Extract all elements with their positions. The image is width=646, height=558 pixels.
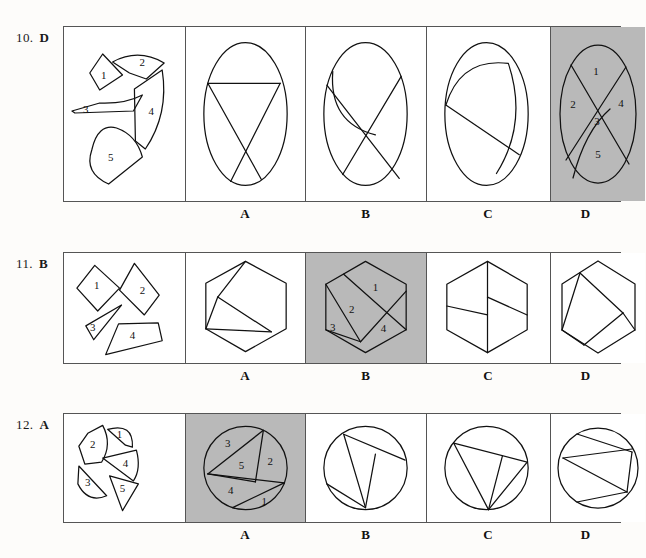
piece-number: 5 bbox=[108, 150, 114, 162]
piece-number: 4 bbox=[123, 457, 129, 469]
option-letter-10-d: D bbox=[550, 206, 621, 222]
piece-number: 2 bbox=[140, 55, 145, 67]
piece-number: 4 bbox=[228, 484, 234, 496]
piece-number: 3 bbox=[85, 476, 91, 488]
answer-strip-12: 1 2 3 4 5 bbox=[63, 413, 621, 523]
piece-number: 4 bbox=[149, 104, 155, 116]
option-panel-11-c[interactable] bbox=[427, 253, 551, 363]
piece-number: 2 bbox=[570, 98, 576, 110]
question-answer-10: D bbox=[39, 30, 49, 45]
question-label-12: 12.A bbox=[16, 417, 49, 433]
option-letter-11-b: B bbox=[305, 368, 426, 384]
piece-number: 1 bbox=[262, 495, 267, 507]
piece-number: 3 bbox=[330, 321, 336, 333]
piece-number: 2 bbox=[90, 438, 95, 450]
piece-number: 2 bbox=[268, 455, 273, 467]
question-number-11: 11. bbox=[16, 256, 33, 271]
question-number-10: 10. bbox=[16, 30, 33, 45]
option-letters-10: A B C D bbox=[63, 206, 621, 222]
piece-number: 1 bbox=[94, 279, 99, 291]
answer-strip-11: 1 2 3 4 bbox=[63, 252, 621, 364]
pieces-panel-12: 1 2 3 4 5 bbox=[64, 414, 186, 522]
option-panel-10-d[interactable]: 1 2 3 4 5 bbox=[551, 27, 645, 201]
piece-number: 4 bbox=[381, 322, 387, 334]
option-panel-12-c[interactable] bbox=[427, 414, 551, 522]
worksheet-page: 10.D 1 2 3 4 bbox=[0, 0, 646, 558]
question-row-12: 12.A 1 2 3 4 bbox=[0, 411, 646, 558]
option-letter-11-d: D bbox=[550, 368, 621, 384]
option-letter-10-a: A bbox=[185, 206, 305, 222]
piece-number: 2 bbox=[140, 284, 145, 296]
piece-number: 4 bbox=[130, 329, 136, 341]
option-letters-12: A B C D bbox=[63, 527, 621, 543]
pieces-panel-10: 1 2 3 4 5 bbox=[64, 27, 186, 201]
question-number-12: 12. bbox=[16, 417, 33, 432]
pieces-panel-11: 1 2 3 4 bbox=[64, 253, 186, 363]
option-panel-12-a[interactable]: 3 2 5 4 1 bbox=[186, 414, 306, 522]
piece-number: 1 bbox=[373, 281, 378, 293]
piece-number: 1 bbox=[593, 65, 599, 77]
piece-number: 3 bbox=[225, 437, 231, 449]
option-letters-11: A B C D bbox=[63, 368, 621, 384]
option-letter-12-a: A bbox=[185, 527, 305, 543]
piece-number: 3 bbox=[90, 321, 96, 333]
option-panel-12-d[interactable] bbox=[551, 414, 645, 522]
option-letter-11-c: C bbox=[426, 368, 550, 384]
option-letter-10-c: C bbox=[426, 206, 550, 222]
piece-number: 1 bbox=[101, 68, 106, 80]
question-row-11: 11.B 1 2 3 4 bbox=[0, 250, 646, 410]
piece-number: 2 bbox=[349, 303, 354, 315]
piece-number: 5 bbox=[120, 482, 126, 494]
option-panel-10-b[interactable] bbox=[306, 27, 427, 201]
question-label-10: 10.D bbox=[16, 30, 49, 46]
option-letter-10-b: B bbox=[305, 206, 426, 222]
piece-number: 3 bbox=[83, 102, 89, 114]
piece-number: 3 bbox=[594, 115, 600, 127]
question-row-10: 10.D 1 2 3 4 bbox=[0, 24, 646, 229]
question-answer-11: B bbox=[39, 256, 48, 271]
question-answer-12: A bbox=[39, 417, 49, 432]
option-panel-10-c[interactable] bbox=[427, 27, 551, 201]
question-label-11: 11.B bbox=[16, 256, 48, 272]
option-letter-11-a: A bbox=[185, 368, 305, 384]
piece-number: 5 bbox=[595, 148, 601, 160]
option-letter-12-c: C bbox=[426, 527, 550, 543]
option-panel-11-d[interactable] bbox=[551, 253, 645, 363]
option-panel-12-b[interactable] bbox=[306, 414, 427, 522]
piece-number: 1 bbox=[117, 428, 122, 440]
option-panel-11-a[interactable] bbox=[186, 253, 306, 363]
option-letter-12-d: D bbox=[550, 527, 621, 543]
option-letter-12-b: B bbox=[305, 527, 426, 543]
option-panel-10-a[interactable] bbox=[186, 27, 306, 201]
answer-strip-10: 1 2 3 4 5 bbox=[63, 26, 621, 202]
option-panel-11-b[interactable]: 1 2 3 4 bbox=[306, 253, 427, 363]
piece-number: 5 bbox=[239, 459, 245, 471]
piece-number: 4 bbox=[618, 97, 624, 109]
